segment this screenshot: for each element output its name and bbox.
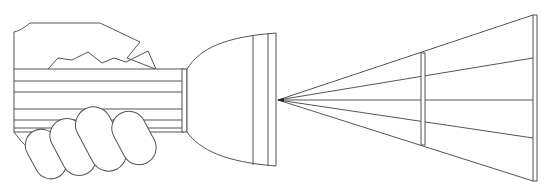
hand-back — [14, 23, 158, 70]
flashlight-head — [187, 33, 276, 166]
flashlight-diagram — [0, 0, 553, 193]
far-screen — [533, 15, 537, 181]
near-screen — [421, 53, 425, 145]
light-source-point — [277, 98, 284, 102]
light-rays — [278, 15, 533, 181]
